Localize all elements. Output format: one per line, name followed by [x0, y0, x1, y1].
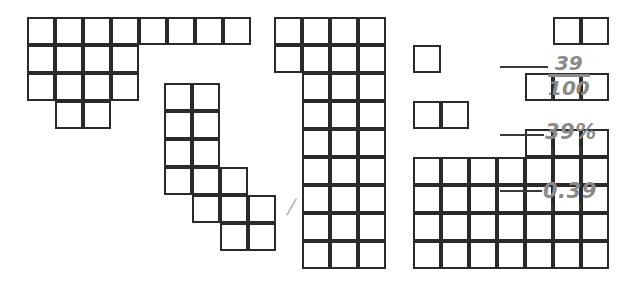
grid-cell: [274, 17, 302, 45]
grid-cell: [223, 17, 251, 45]
fraction-denominator: 100: [548, 78, 590, 98]
grid-cell: [164, 83, 192, 111]
grid-cell: [27, 45, 55, 73]
grid-cell: [413, 101, 441, 129]
grid-cell: [553, 213, 581, 241]
grid-cell: [413, 213, 441, 241]
grid-cell: [358, 157, 386, 185]
grid-cell: [302, 185, 330, 213]
grid-cell: [302, 73, 330, 101]
grid-cell: [413, 157, 441, 185]
grid-cell: [302, 45, 330, 73]
grid-cell: [83, 17, 111, 45]
grid-cell: [525, 213, 553, 241]
tick-mark-decimal-right: [579, 203, 581, 211]
grid-cell: [192, 167, 220, 195]
stray-pencil-mark: /: [285, 194, 297, 220]
grid-cell: [111, 45, 139, 73]
grid-cell: [441, 213, 469, 241]
grid-cell: [164, 139, 192, 167]
grid-cell: [469, 157, 497, 185]
grid-cell: [330, 73, 358, 101]
grid-cell: [55, 45, 83, 73]
grid-cell: [358, 101, 386, 129]
grid-cell: [441, 101, 469, 129]
tick-mark-decimal-left: [551, 203, 553, 211]
grid-cell: [441, 185, 469, 213]
grid-cell: [469, 241, 497, 269]
grid-cell: [83, 101, 111, 129]
grid-cell: [330, 185, 358, 213]
grid-cell: [302, 213, 330, 241]
grid-cell: [83, 73, 111, 101]
fraction-numerator: 39: [548, 53, 590, 73]
grid-cell: [497, 157, 525, 185]
grid-cell: [553, 17, 581, 45]
grid-cell: [358, 213, 386, 241]
grid-cell: [139, 17, 167, 45]
grid-cell: [195, 17, 223, 45]
grid-cell: [358, 185, 386, 213]
grid-cell: [55, 73, 83, 101]
grid-cell: [302, 157, 330, 185]
leader-line-decimal: [500, 190, 542, 192]
grid-cell: [330, 17, 358, 45]
grid-cell: [167, 17, 195, 45]
grid-cell: [413, 45, 441, 73]
grid-cell: [55, 101, 83, 129]
grid-cell: [192, 111, 220, 139]
grid-cell: [111, 17, 139, 45]
grid-cell: [469, 185, 497, 213]
grid-cell: [330, 213, 358, 241]
grid-cell: [164, 111, 192, 139]
annotation-percent: 39%: [545, 122, 597, 143]
grid-cell: [111, 73, 139, 101]
grid-cell: [274, 45, 302, 73]
grid-cell: [83, 45, 111, 73]
tick-mark-percent-right: [579, 147, 581, 155]
grid-cell: [220, 223, 248, 251]
grid-cell: [441, 241, 469, 269]
grid-cell: [413, 241, 441, 269]
grid-cell: [581, 17, 609, 45]
grid-cell: [27, 73, 55, 101]
grid-cell: [164, 167, 192, 195]
grid-cell: [358, 45, 386, 73]
grid-cell: [330, 129, 358, 157]
grid-cell: [302, 129, 330, 157]
annotation-decimal: 0.39: [543, 181, 597, 202]
grid-cell: [441, 157, 469, 185]
grid-cell: [358, 241, 386, 269]
tick-mark-percent-left: [551, 147, 553, 155]
grid-cell: [358, 73, 386, 101]
grid-cell: [220, 167, 248, 195]
grid-cell: [330, 241, 358, 269]
grid-cell: [302, 101, 330, 129]
grid-cell: [220, 195, 248, 223]
grid-cell: [330, 45, 358, 73]
grid-cell: [358, 17, 386, 45]
grid-cell: [330, 101, 358, 129]
tick-mark-fraction-right: [579, 92, 581, 100]
grid-cell: [248, 195, 276, 223]
grid-cell: [27, 17, 55, 45]
leader-line-fraction: [500, 66, 548, 68]
grid-cell: [413, 185, 441, 213]
tick-mark-fraction-left: [551, 92, 553, 100]
grid-cell: [581, 241, 609, 269]
grid-cell: [553, 241, 581, 269]
grid-cell: [330, 157, 358, 185]
grid-cell: [469, 213, 497, 241]
grid-cell: [525, 241, 553, 269]
leader-line-percent: [500, 134, 544, 136]
grid-cell: [192, 195, 220, 223]
grid-cell: [581, 213, 609, 241]
grid-cell: [248, 223, 276, 251]
grid-cell: [497, 241, 525, 269]
grid-cell: [497, 213, 525, 241]
grid-cell: [302, 241, 330, 269]
grid-cell: [302, 17, 330, 45]
grid-cell: [192, 83, 220, 111]
grid-cell: [358, 129, 386, 157]
grid-cell: [192, 139, 220, 167]
